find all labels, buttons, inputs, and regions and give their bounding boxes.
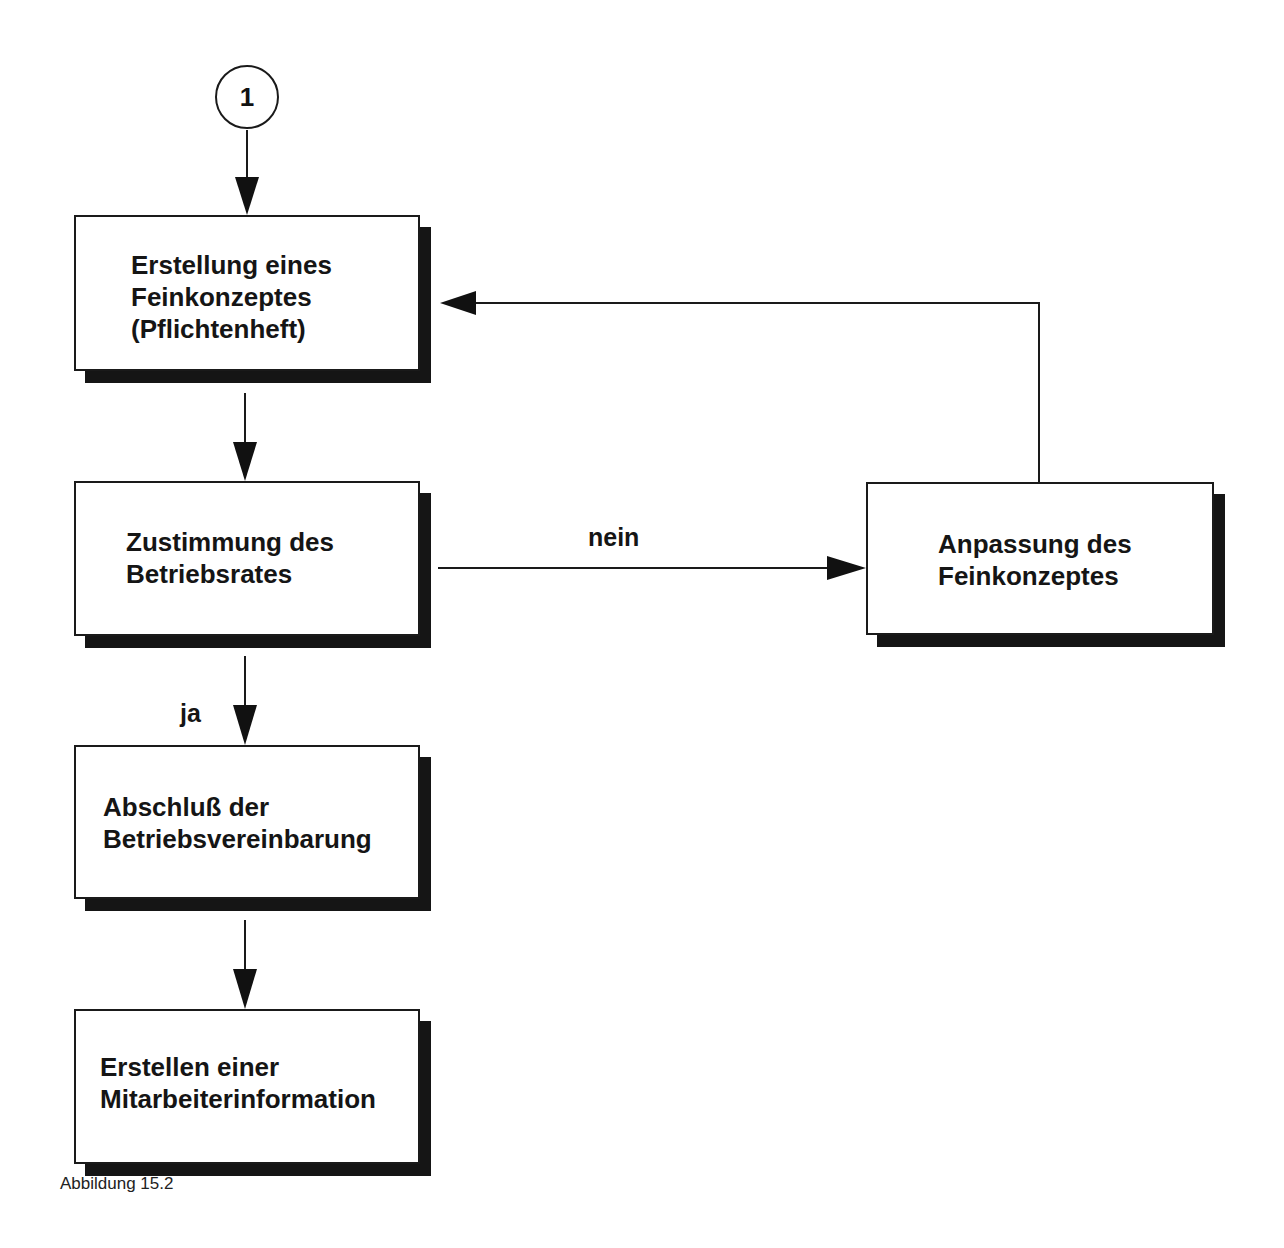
figure-caption: Abbildung 15.2: [60, 1174, 173, 1194]
node-label: Anpassung des Feinkonzeptes: [938, 528, 1132, 592]
node-anpassung: Anpassung des Feinkonzeptes: [866, 482, 1214, 635]
arrowhead-icon: [233, 705, 257, 745]
node-label: Erstellen einer Mitarbeiterinformation: [100, 1051, 376, 1115]
node-mitarbeiterinfo: Erstellen einer Mitarbeiterinformation: [74, 1009, 420, 1164]
arrowhead-icon: [233, 442, 257, 481]
edge-label-ja: ja: [180, 699, 201, 728]
arrowhead-icon: [233, 969, 257, 1009]
node-label: Erstellung eines Feinkonzeptes (Pflichte…: [131, 249, 332, 345]
start-connector: 1: [215, 65, 279, 129]
arrowhead-icon: [440, 291, 476, 315]
node-feinkonzept: Erstellung eines Feinkonzeptes (Pflichte…: [74, 215, 420, 371]
connector-label: 1: [240, 82, 254, 113]
node-zustimmung: Zustimmung des Betriebsrates: [74, 481, 420, 636]
arrowhead-icon: [827, 556, 866, 580]
edge-label-nein: nein: [588, 523, 639, 552]
flowchart-canvas: 1 Erstellung eines Feinkonzeptes (Pflich…: [0, 0, 1284, 1248]
node-label: Zustimmung des Betriebsrates: [126, 526, 334, 590]
arrowhead-icon: [235, 177, 259, 215]
node-abschluss: Abschluß der Betriebsvereinbarung: [74, 745, 420, 899]
node-label: Abschluß der Betriebsvereinbarung: [103, 791, 372, 855]
